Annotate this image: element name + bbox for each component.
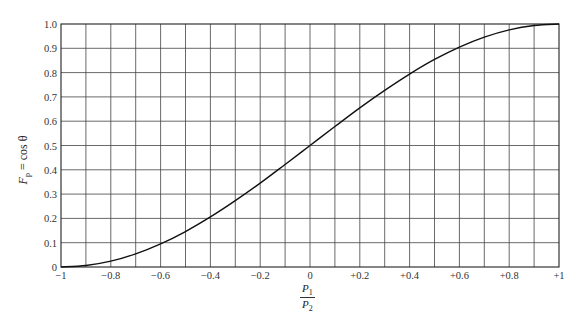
y-label-rest: = cos θ	[16, 136, 30, 174]
x-label-den-sub: 2	[309, 304, 313, 313]
y-tick-label: 0.5	[44, 141, 57, 152]
x-tick-label: +0.2	[350, 270, 369, 281]
x-label-denominator: P2	[300, 298, 315, 313]
y-tick-label: 0.9	[44, 43, 57, 54]
x-label-numerator: P1	[300, 282, 315, 298]
x-tick-label: +0.6	[450, 270, 469, 281]
y-tick-label: 0.7	[44, 92, 57, 103]
y-tick-label: 0.1	[44, 238, 57, 249]
y-label-sub: p	[23, 173, 32, 177]
x-tick-label: −0.6	[151, 270, 170, 281]
x-tick-label: +1	[553, 270, 564, 281]
y-tick-label: 0.3	[44, 189, 57, 200]
x-label-num-text: P	[302, 282, 309, 294]
y-tick-label: 1.0	[44, 19, 57, 30]
y-tick-label: 0.6	[44, 116, 57, 127]
x-tick-label: −0.8	[101, 270, 120, 281]
x-tick-label: −0.4	[201, 270, 221, 281]
y-label-main: F	[16, 177, 30, 184]
x-label-den-text: P	[302, 298, 309, 310]
y-tick-label: 0.2	[44, 213, 57, 224]
y-tick-label: 0.4	[44, 165, 58, 176]
y-tick-label: 0	[52, 262, 57, 273]
x-axis-ticks: −1−0.8−0.6−0.4−0.20+0.2+0.4+0.6+0.8+1	[55, 270, 564, 281]
x-tick-label: +0.4	[400, 270, 420, 281]
y-tick-label: 0.8	[44, 68, 57, 79]
x-tick-label: +0.8	[500, 270, 519, 281]
x-tick-label: 0	[307, 270, 312, 281]
y-axis-ticks: 00.10.20.30.40.50.60.70.80.91.0	[44, 19, 58, 273]
x-tick-label: −0.2	[251, 270, 270, 281]
x-label-num-sub: 1	[309, 288, 313, 297]
chart-canvas: −1−0.8−0.6−0.4−0.20+0.2+0.4+0.6+0.8+1 00…	[0, 0, 580, 327]
x-tick-label: −1	[55, 270, 66, 281]
x-axis-label: P1 P2	[300, 282, 315, 313]
y-axis-label: Fp = cos θ	[4, 120, 44, 200]
